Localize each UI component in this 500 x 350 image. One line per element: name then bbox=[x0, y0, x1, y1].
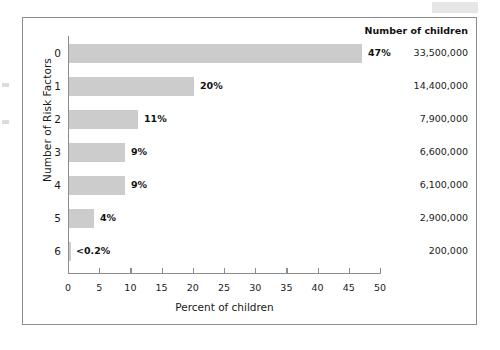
bar-segment bbox=[69, 44, 362, 63]
bar-row: 0 47% 33,500,000 bbox=[23, 42, 476, 75]
page-edge-artifact bbox=[2, 83, 9, 87]
number-of-children-header: Number of children bbox=[365, 25, 468, 36]
category-label: 2 bbox=[41, 113, 61, 125]
x-tick-mark bbox=[193, 268, 194, 274]
bar-value-label: <0.2% bbox=[76, 245, 110, 256]
bar-segment bbox=[69, 77, 194, 96]
bar-segment bbox=[69, 242, 71, 261]
category-label: 5 bbox=[41, 212, 61, 224]
x-tick-mark bbox=[349, 268, 350, 274]
x-tick-label: 0 bbox=[56, 282, 80, 293]
scan-artifact-top-right bbox=[432, 2, 478, 13]
bar-chart-plot-area: Number of Risk Factors Number of childre… bbox=[23, 18, 476, 324]
page-edge-artifact bbox=[2, 120, 9, 124]
bar-value-label: 9% bbox=[131, 179, 147, 190]
category-label: 1 bbox=[41, 80, 61, 92]
children-count-value: 6,600,000 bbox=[420, 146, 468, 157]
bar-segment bbox=[69, 143, 125, 162]
x-tick-label: 35 bbox=[274, 282, 298, 293]
bar-value-label: 11% bbox=[144, 113, 167, 124]
x-tick-mark bbox=[162, 268, 163, 274]
bar-segment bbox=[69, 176, 125, 195]
x-tick-mark bbox=[224, 268, 225, 274]
bar-row: 1 20% 14,400,000 bbox=[23, 75, 476, 108]
category-label: 4 bbox=[41, 179, 61, 191]
bar-value-label: 9% bbox=[131, 146, 147, 157]
x-tick-label: 25 bbox=[212, 282, 236, 293]
x-tick-label: 10 bbox=[118, 282, 142, 293]
children-count-value: 2,900,000 bbox=[420, 212, 468, 223]
bar-row: 2 11% 7,900,000 bbox=[23, 108, 476, 141]
x-axis-title: Percent of children bbox=[68, 301, 381, 313]
x-tick-label: 5 bbox=[87, 282, 111, 293]
x-tick-mark bbox=[130, 268, 131, 274]
bar-row: 6 <0.2% 200,000 bbox=[23, 240, 476, 273]
x-tick-mark bbox=[286, 268, 287, 274]
bar-segment bbox=[69, 209, 94, 228]
category-label: 6 bbox=[41, 245, 61, 257]
bar-segment bbox=[69, 110, 138, 129]
bar-value-label: 4% bbox=[100, 212, 116, 223]
children-count-value: 200,000 bbox=[429, 245, 468, 256]
x-tick-mark bbox=[68, 268, 69, 274]
x-tick-mark bbox=[255, 268, 256, 274]
x-tick-mark bbox=[99, 268, 100, 274]
children-count-value: 14,400,000 bbox=[414, 80, 468, 91]
bar-row: 4 9% 6,100,000 bbox=[23, 174, 476, 207]
bar-value-label: 47% bbox=[368, 47, 391, 58]
x-axis-ticks: 0 5 10 15 20 25 30 35 40 45 50 bbox=[68, 274, 381, 281]
x-tick-label: 15 bbox=[150, 282, 174, 293]
bar-value-label: 20% bbox=[200, 80, 223, 91]
children-count-value: 6,100,000 bbox=[420, 179, 468, 190]
x-tick-label: 45 bbox=[337, 282, 361, 293]
x-tick-label: 40 bbox=[306, 282, 330, 293]
chart-figure-frame: Number of Risk Factors Number of childre… bbox=[22, 17, 477, 325]
x-tick-label: 50 bbox=[368, 282, 392, 293]
x-tick-label: 30 bbox=[243, 282, 267, 293]
x-tick-label: 20 bbox=[181, 282, 205, 293]
x-tick-mark bbox=[318, 268, 319, 274]
children-count-value: 7,900,000 bbox=[420, 113, 468, 124]
category-label: 3 bbox=[41, 146, 61, 158]
bar-row: 5 4% 2,900,000 bbox=[23, 207, 476, 240]
bar-row: 3 9% 6,600,000 bbox=[23, 141, 476, 174]
bar-rows: 0 47% 33,500,000 1 20% 14,400,000 2 11% … bbox=[23, 42, 476, 273]
children-count-value: 33,500,000 bbox=[414, 47, 468, 58]
x-tick-mark bbox=[380, 268, 381, 274]
category-label: 0 bbox=[41, 47, 61, 59]
